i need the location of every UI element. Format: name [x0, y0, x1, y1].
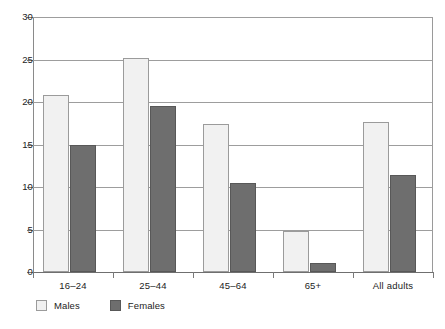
y-axis-tick-label: 5 [11, 224, 33, 235]
x-axis-line [33, 272, 433, 273]
y-axis-tick-label: 30 [11, 11, 33, 22]
y-axis-tick-label: 15 [11, 139, 33, 150]
bar-chart: 051015202530 16–2425–4445–6465+All adult… [0, 0, 445, 329]
x-tick-mark [113, 272, 114, 278]
y-tick-label-wrap: 15 [0, 139, 33, 151]
y-axis-tick-label: 20 [11, 96, 33, 107]
legend-swatch-males [36, 300, 47, 311]
y-tick-label-wrap: 25 [0, 54, 33, 66]
bar-females-1 [150, 106, 176, 272]
bar-males-0 [43, 95, 69, 272]
bar-males-2 [203, 124, 229, 272]
legend-item-females[interactable]: Females [110, 300, 165, 311]
legend: MalesFemales [36, 300, 165, 311]
x-axis-label-4: All adults [373, 280, 414, 291]
bar-females-4 [390, 175, 416, 272]
bars-layer [33, 17, 433, 272]
bar-males-4 [363, 122, 389, 272]
bar-females-0 [70, 145, 96, 273]
x-axis-label-0: 16–24 [59, 280, 86, 291]
y-tick-label-wrap: 30 [0, 11, 33, 23]
legend-label-females: Females [128, 300, 165, 311]
x-tick-mark [193, 272, 194, 278]
bar-females-3 [310, 263, 336, 272]
y-tick-label-wrap: 0 [0, 266, 33, 278]
x-tick-mark [273, 272, 274, 278]
x-tick-mark [33, 272, 34, 278]
bar-males-1 [123, 58, 149, 272]
bar-females-2 [230, 183, 256, 272]
y-axis-tick-label: 10 [11, 181, 33, 192]
x-tick-mark-end [433, 272, 434, 278]
legend-label-males: Males [54, 300, 80, 311]
x-tick-mark [353, 272, 354, 278]
bar-males-3 [283, 231, 309, 272]
x-axis-label-1: 25–44 [139, 280, 166, 291]
y-tick-label-wrap: 5 [0, 224, 33, 236]
legend-item-males[interactable]: Males [36, 300, 80, 311]
y-axis-tick-label: 25 [11, 54, 33, 65]
y-axis-tick-label: 0 [11, 266, 33, 277]
y-tick-label-wrap: 20 [0, 96, 33, 108]
x-axis-label-3: 65+ [305, 280, 322, 291]
legend-swatch-females [110, 300, 121, 311]
y-tick-label-wrap: 10 [0, 181, 33, 193]
x-axis-label-2: 45–64 [219, 280, 246, 291]
